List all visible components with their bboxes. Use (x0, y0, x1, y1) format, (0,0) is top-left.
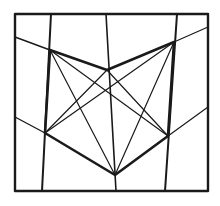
line-diag-TM-to-BR (107, 70, 168, 136)
vertical-line-v-middle (106, 14, 116, 191)
geometric-figure (0, 0, 220, 206)
line-ext-bottom-right (168, 107, 208, 136)
diagram-canvas (0, 0, 220, 206)
line-ext-bottom-left (15, 117, 45, 133)
line-ext-top-left (15, 37, 50, 50)
line-ext-top-right (174, 27, 208, 42)
line-diag-TM-to-BL (45, 70, 107, 133)
